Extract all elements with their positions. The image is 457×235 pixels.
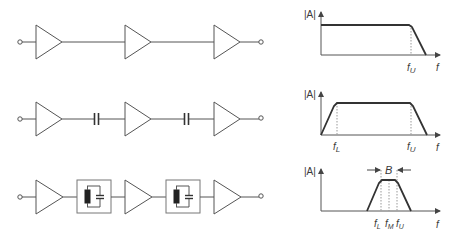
input-terminal [18, 195, 22, 199]
amplifier-3-triangle-icon [214, 102, 240, 136]
svg-text:fU: fU [407, 62, 416, 75]
amplifier-1-triangle-icon [36, 180, 63, 214]
amplifier-1-triangle-icon [36, 25, 62, 59]
amplifier-3-triangle-icon [214, 25, 240, 59]
svg-text:|A|: |A| [304, 166, 316, 177]
lc-tank-filter-1-icon [77, 180, 111, 213]
svg-text:fL: fL [333, 141, 340, 154]
frequency-response-bandpass-narrow: B |A| fL fM fU f [304, 164, 440, 230]
svg-text:fM: fM [385, 218, 394, 230]
frequency-response-bandpass-wide: |A| fL fU f [304, 89, 440, 154]
input-terminal [18, 40, 22, 44]
response-curve [321, 25, 426, 55]
output-terminal [259, 40, 263, 44]
coupling-capacitor-1-icon [95, 113, 99, 125]
input-terminal [18, 117, 22, 121]
output-terminal [259, 194, 263, 198]
svg-text:f: f [436, 62, 440, 73]
row-direct-coupled-circuit [18, 25, 263, 59]
amplifier-2-triangle-icon [125, 25, 151, 59]
frequency-response-lowpass: |A| fU f [304, 9, 440, 75]
amplifier-coupling-diagram: |A| fU f |A| fL fU f B |A| fL fM fU f [0, 0, 457, 235]
bandwidth-indicator: B [367, 164, 411, 176]
amplifier-2-triangle-icon [125, 180, 152, 214]
svg-text:f: f [436, 219, 440, 230]
svg-text:fU: fU [396, 218, 405, 230]
output-terminal [259, 116, 263, 120]
amplifier-1-triangle-icon [36, 102, 62, 136]
svg-text:|A|: |A| [304, 89, 316, 100]
svg-text:fU: fU [407, 141, 416, 154]
row-capacitor-coupled-circuit [18, 102, 263, 136]
svg-text:|A|: |A| [304, 9, 316, 20]
row-resonant-coupled-circuit [18, 180, 263, 214]
amplifier-2-triangle-icon [125, 102, 151, 136]
amplifier-3-triangle-icon [214, 180, 241, 214]
coupling-capacitor-2-icon [185, 113, 189, 125]
svg-text:f: f [436, 142, 440, 153]
lc-tank-filter-2-icon [166, 180, 200, 213]
svg-text:fL: fL [374, 218, 381, 230]
svg-text:B: B [385, 164, 392, 176]
